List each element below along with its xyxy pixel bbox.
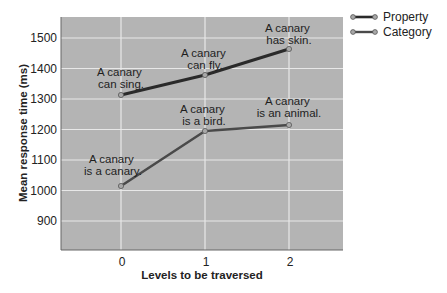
data-point xyxy=(202,72,207,77)
data-point xyxy=(118,183,123,188)
legend-swatch-marker xyxy=(373,30,378,35)
y-tick-label: 900 xyxy=(37,214,57,228)
y-tick-label: 1000 xyxy=(30,184,57,198)
annotation-line: can sing. xyxy=(98,78,144,90)
annotation-line: A canary xyxy=(265,22,310,34)
annotation-line: can fly. xyxy=(187,59,223,71)
data-point xyxy=(286,122,291,127)
legend-label-property: Property xyxy=(383,10,428,24)
annotation-can-sing: A canary can sing. xyxy=(97,66,145,90)
y-tick-label: 1100 xyxy=(31,153,57,167)
x-tick-labels: 0 1 2 xyxy=(119,255,294,269)
legend-item-property: Property xyxy=(351,10,429,24)
legend-swatch-marker xyxy=(351,30,356,35)
annotation-line: is an animal. xyxy=(257,107,322,119)
legend-item-category: Category xyxy=(351,25,432,39)
data-point xyxy=(202,128,207,133)
annotation-line: A canary xyxy=(89,153,134,165)
y-tick-label: 1400 xyxy=(30,62,57,76)
annotation-is-a-bird: A canary is a bird. xyxy=(180,103,228,127)
annotation-line: has skin. xyxy=(266,34,311,46)
data-point xyxy=(286,46,291,51)
x-tick-label: 0 xyxy=(119,255,126,269)
x-axis-title: Levels to be traversed xyxy=(141,269,262,281)
legend: Property Category xyxy=(351,10,432,39)
annotation-line: A canary xyxy=(265,95,310,107)
legend-swatch-marker xyxy=(373,15,378,20)
annotation-line: A canary xyxy=(97,66,142,78)
x-tick-label: 1 xyxy=(203,255,210,269)
legend-swatch-marker xyxy=(351,15,356,20)
y-tick-label: 1300 xyxy=(30,92,57,106)
x-tick-label: 2 xyxy=(287,255,294,269)
response-time-chart: 1500 1400 1300 1200 1100 1000 900 0 1 2 … xyxy=(0,0,447,293)
annotation-is-an-animal: A canary is an animal. xyxy=(257,95,322,119)
y-axis-title: Mean response time (ms) xyxy=(17,64,29,202)
annotation-line: is a bird. xyxy=(182,115,225,127)
legend-label-category: Category xyxy=(383,25,432,39)
annotation-is-a-canary: A canary is a canary. xyxy=(84,153,142,177)
annotation-has-skin: A canary has skin. xyxy=(265,22,313,46)
y-tick-labels: 1500 1400 1300 1200 1100 1000 900 xyxy=(30,31,57,228)
annotation-can-fly: A canary can fly. xyxy=(181,47,229,71)
annotation-line: is a canary. xyxy=(84,165,142,177)
annotation-line: A canary xyxy=(180,103,225,115)
annotation-line: A canary xyxy=(181,47,226,59)
y-tick-label: 1200 xyxy=(30,123,57,137)
y-tick-label: 1500 xyxy=(30,31,57,45)
data-point xyxy=(118,92,123,97)
